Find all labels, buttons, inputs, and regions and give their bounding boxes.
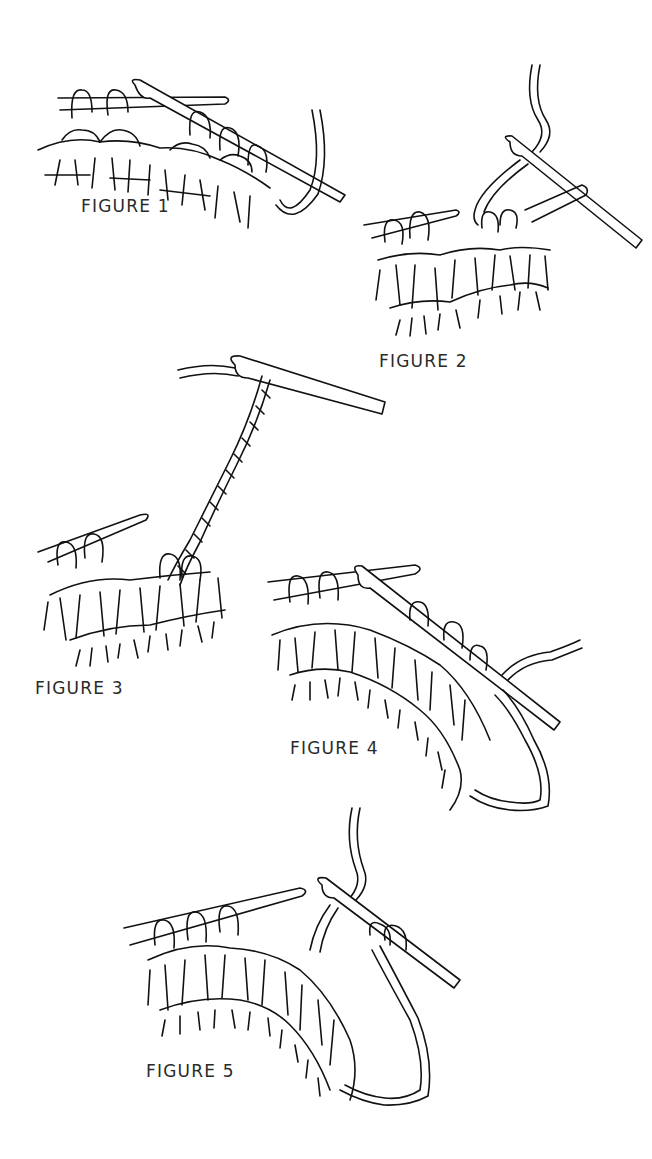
- figure-2: FIGURE 2: [360, 60, 652, 380]
- figure-4-label: FIGURE 4: [290, 738, 379, 758]
- figure-1-label: FIGURE 1: [81, 196, 170, 216]
- figure-3-label: FIGURE 3: [35, 678, 124, 698]
- figure-2-illustration: [360, 60, 652, 380]
- figure-5: FIGURE 5: [120, 800, 500, 1140]
- figure-5-label: FIGURE 5: [146, 1061, 235, 1081]
- figure-1-illustration: [0, 0, 360, 240]
- figure-5-illustration: [120, 800, 500, 1140]
- figure-2-label: FIGURE 2: [379, 351, 468, 371]
- figure-1: FIGURE 1: [0, 0, 360, 240]
